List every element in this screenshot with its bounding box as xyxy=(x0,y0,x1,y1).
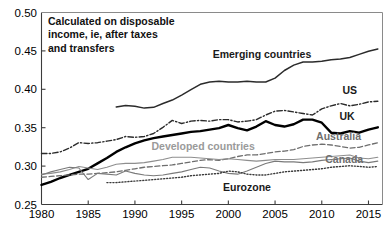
annotation-line: income, ie, after taxes xyxy=(48,28,158,40)
x-tick-label: 2000 xyxy=(216,208,242,220)
x-tick-label: 2010 xyxy=(309,208,335,220)
x-tick-label: 1985 xyxy=(75,208,101,220)
y-tick-label: 0.35 xyxy=(15,122,37,134)
series-label-us: US xyxy=(343,84,358,96)
x-tick-label: 1995 xyxy=(169,208,195,220)
chart-canvas: 0.250.300.350.400.450.50 198019851990199… xyxy=(0,0,389,237)
x-tick-label: 1980 xyxy=(29,208,55,220)
series-label-developed-countries: Developed countries xyxy=(151,140,254,152)
x-tick-label: 2005 xyxy=(262,208,288,220)
income-inequality-chart: 0.250.300.350.400.450.50 198019851990199… xyxy=(0,0,389,237)
x-tick-label: 1990 xyxy=(122,208,148,220)
y-tick-label: 0.45 xyxy=(15,45,37,57)
series-label-uk: UK xyxy=(339,110,355,122)
annotation-line: and transfers xyxy=(48,42,115,54)
series-label-eurozone: Eurozone xyxy=(223,181,271,193)
series-label-canada: Canada xyxy=(325,153,363,165)
y-tick-label: 0.40 xyxy=(15,83,37,95)
y-tick-label: 0.30 xyxy=(15,160,37,172)
y-tick-label: 0.50 xyxy=(15,7,37,19)
series-label-australia: Australia xyxy=(316,130,361,142)
series-label-emerging-countries: Emerging countries xyxy=(213,48,312,60)
x-tick-label: 2015 xyxy=(356,208,382,220)
annotation-line: Calculated on disposable xyxy=(48,15,175,27)
